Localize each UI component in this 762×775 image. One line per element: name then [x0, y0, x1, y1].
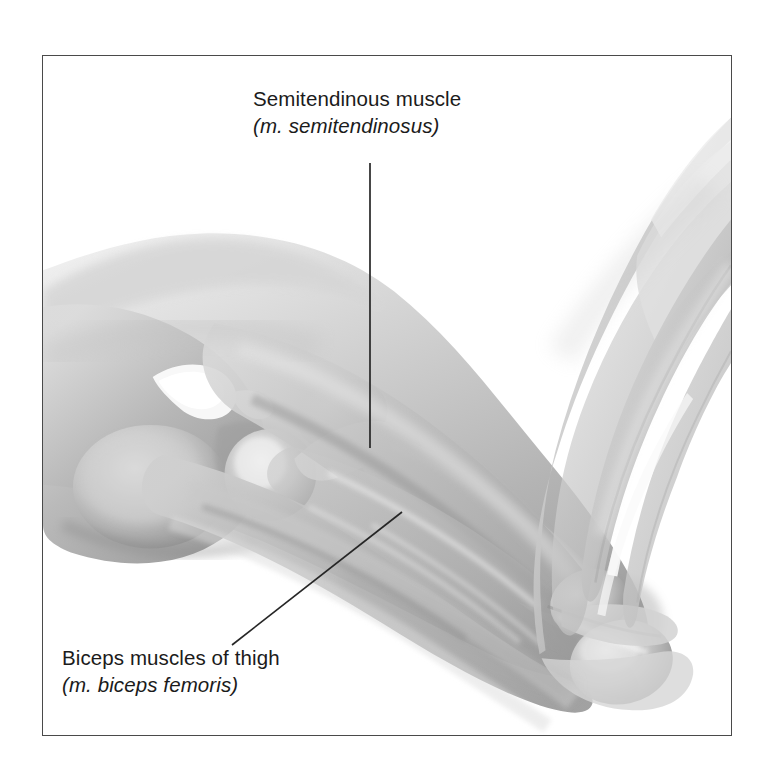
label-biceps-femoris-latin: (m. biceps femoris) — [62, 672, 280, 699]
label-semitendinosus-common: Semitendinous muscle — [253, 86, 461, 113]
label-biceps-femoris: Biceps muscles of thigh (m. biceps femor… — [62, 645, 280, 698]
label-semitendinosus-latin: (m. semitendinosus) — [253, 113, 461, 140]
anatomical-figure: Semitendinous muscle (m. semitendinosus)… — [0, 0, 762, 775]
anatomy-illustration — [43, 56, 731, 735]
label-semitendinosus: Semitendinous muscle (m. semitendinosus) — [253, 86, 461, 139]
label-biceps-femoris-common: Biceps muscles of thigh — [62, 645, 280, 672]
illustration-frame — [42, 55, 732, 736]
